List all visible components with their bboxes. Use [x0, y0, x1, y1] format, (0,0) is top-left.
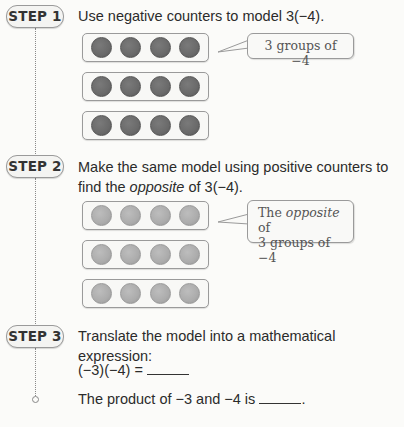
step-2-instruction: Make the same model using positive count…	[78, 157, 388, 197]
negative-counter	[91, 37, 112, 58]
positive-group-2	[82, 240, 209, 269]
negative-counter	[150, 76, 171, 97]
negative-group-3	[82, 111, 209, 140]
callout-1: 3 groups of −4	[247, 33, 354, 59]
negative-counter	[179, 76, 200, 97]
callout-2-line-1: The opposite of	[258, 205, 345, 235]
positive-counter	[120, 283, 141, 304]
negative-counter	[120, 76, 141, 97]
step-2-instruction-line-1: Make the same model using positive count…	[78, 157, 388, 177]
equation-answer-blank[interactable]	[147, 360, 189, 375]
positive-counter	[150, 283, 171, 304]
emphasis-opposite: opposite	[286, 205, 340, 220]
timeline-line-2	[35, 178, 36, 324]
positive-counter	[91, 205, 112, 226]
negative-counter	[150, 115, 171, 136]
product-statement: The product of −3 and −4 is .	[78, 389, 305, 409]
step-1-badge: STEP 1	[6, 5, 64, 28]
positive-counter	[179, 283, 200, 304]
negative-counter	[179, 115, 200, 136]
negative-counter	[150, 37, 171, 58]
positive-counter	[120, 205, 141, 226]
positive-counter	[179, 244, 200, 265]
equation-text: (−3)(−4) =	[78, 362, 143, 378]
callout-2-line-2: 3 groups of −4	[258, 235, 345, 265]
text: find the	[78, 179, 130, 195]
text: The	[258, 205, 286, 220]
negative-counter	[91, 76, 112, 97]
negative-group-1	[82, 33, 209, 62]
step-1-instruction: Use negative counters to model 3(−4).	[78, 6, 324, 26]
step-3-badge: STEP 3	[6, 325, 64, 348]
timeline-end-circle	[32, 396, 39, 403]
step-2-instruction-line-2: find the opposite of 3(−4).	[78, 177, 388, 197]
timeline-line-1	[35, 28, 36, 154]
positive-counter	[179, 205, 200, 226]
callout-2: The opposite of 3 groups of −4	[247, 200, 354, 243]
positive-counter	[91, 283, 112, 304]
product-answer-blank[interactable]	[259, 389, 301, 404]
timeline-line-3	[35, 348, 36, 396]
callout-1-text: 3 groups of −4	[264, 38, 336, 68]
callout-2-pointer	[216, 212, 250, 232]
negative-group-2	[82, 72, 209, 101]
positive-group-3	[82, 279, 209, 308]
text: of 3(−4).	[184, 179, 242, 195]
negative-counter	[120, 37, 141, 58]
product-text: The product of −3 and −4 is	[78, 391, 255, 407]
positive-counter	[120, 244, 141, 265]
callout-1-pointer	[216, 38, 250, 58]
positive-counter	[150, 244, 171, 265]
step-2-badge: STEP 2	[6, 155, 64, 178]
emphasis-opposite: opposite	[130, 179, 185, 195]
positive-counter	[91, 244, 112, 265]
equation: (−3)(−4) =	[78, 360, 189, 380]
positive-counter	[150, 205, 171, 226]
negative-counter	[91, 115, 112, 136]
product-period: .	[301, 391, 305, 407]
negative-counter	[179, 37, 200, 58]
text: of	[258, 220, 270, 235]
positive-group-1	[82, 201, 209, 230]
negative-counter	[120, 115, 141, 136]
